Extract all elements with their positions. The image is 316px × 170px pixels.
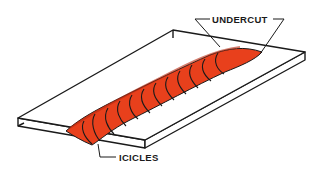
plate-and-bead-drawing <box>0 0 316 170</box>
icicles-label: ICICLES <box>119 152 159 163</box>
undercut-label: UNDERCUT <box>212 14 268 25</box>
icicles-leader <box>98 144 116 157</box>
weld-diagram: UNDERCUT ICICLES <box>0 0 316 170</box>
